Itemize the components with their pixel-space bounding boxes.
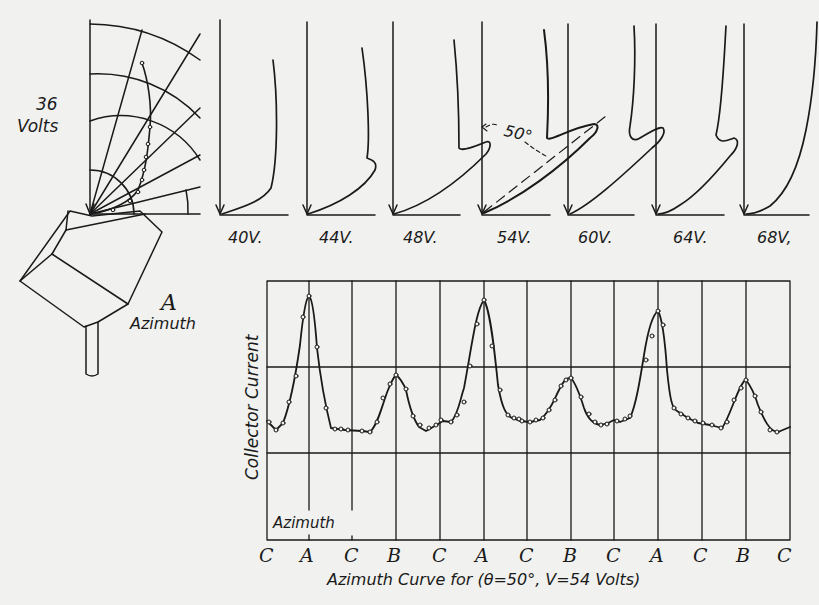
x-tick-c-12: C xyxy=(777,544,792,566)
crystal-drawing xyxy=(20,211,162,376)
polar-voltage-number: 36 xyxy=(36,94,58,114)
x-tick-b-7: B xyxy=(563,544,577,566)
voltage-label-68v: 68V, xyxy=(757,228,792,247)
chart-inner-azimuth-label: Azimuth xyxy=(273,514,335,532)
chart-caption: Azimuth Curve for (θ=50°, V=54 Volts) xyxy=(327,570,640,589)
crystal-azimuth-word: Azimuth xyxy=(130,314,196,333)
voltage-label-60v: 60V. xyxy=(578,228,613,247)
x-tick-a-1: A xyxy=(300,544,314,566)
x-tick-c-8: C xyxy=(606,544,621,566)
azimuth-chart-grid xyxy=(267,281,790,540)
x-tick-a-9: A xyxy=(650,544,664,566)
x-tick-a-5: A xyxy=(475,544,489,566)
curve-44v xyxy=(303,22,376,215)
x-tick-b-3: B xyxy=(387,544,401,566)
curve-60v xyxy=(564,24,664,215)
polar-voltage-unit: Volts xyxy=(17,116,58,136)
curve-64v xyxy=(652,24,737,215)
voltage-label-54v: 54V. xyxy=(497,228,532,247)
x-tick-c-2: C xyxy=(344,544,359,566)
polar-data-points xyxy=(111,61,152,212)
curve-48v xyxy=(389,22,490,215)
voltage-label-64v: 64V. xyxy=(673,228,708,247)
curve-68v xyxy=(740,22,817,215)
voltage-label-44v: 44V. xyxy=(319,228,354,247)
x-tick-c-6: C xyxy=(519,544,534,566)
figure-canvas xyxy=(0,0,819,605)
azimuth-curve xyxy=(267,296,790,432)
polar-plot-36v xyxy=(86,20,200,214)
voltage-label-48v: 48V. xyxy=(403,228,438,247)
x-tick-b-11: B xyxy=(736,544,750,566)
x-tick-c-4: C xyxy=(432,544,447,566)
curve-40v xyxy=(216,20,288,215)
y-axis-label: Collector Current xyxy=(242,340,262,480)
voltage-label-40v: 40V. xyxy=(228,228,263,247)
x-tick-c-10: C xyxy=(693,544,708,566)
curve-54v xyxy=(478,22,606,215)
x-tick-c-0: C xyxy=(259,544,274,566)
crystal-azimuth-letter: A xyxy=(161,290,177,315)
